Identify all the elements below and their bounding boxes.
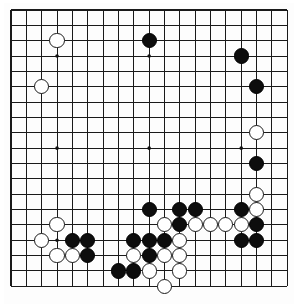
star-point-6 [55, 238, 59, 242]
stone-white-c2-r15[interactable] [34, 233, 49, 248]
stone-black-c7-r17[interactable] [111, 263, 126, 278]
stone-black-c5-r15[interactable] [80, 233, 95, 248]
stone-white-c16-r12[interactable] [249, 187, 264, 202]
star-point-1 [147, 54, 151, 58]
stone-black-c9-r2[interactable] [142, 33, 157, 48]
star-point-0 [55, 54, 59, 58]
stone-black-c15-r3[interactable] [234, 48, 249, 63]
stone-black-c4-r15[interactable] [65, 233, 80, 248]
star-point-3 [55, 146, 59, 150]
stone-white-c3-r14[interactable] [49, 217, 64, 232]
stone-black-c16-r15[interactable] [249, 233, 264, 248]
stone-black-c15-r15[interactable] [234, 233, 249, 248]
star-point-4 [147, 146, 151, 150]
go-board-container [0, 0, 298, 307]
stone-white-c11-r17[interactable] [172, 263, 187, 278]
stone-black-c9-r16[interactable] [142, 248, 157, 263]
star-point-5 [239, 146, 243, 150]
stone-black-c9-r15[interactable] [142, 233, 157, 248]
stone-black-c15-r13[interactable] [234, 202, 249, 217]
stone-white-c10-r18[interactable] [157, 279, 172, 294]
stone-white-c3-r2[interactable] [49, 33, 64, 48]
stone-white-c3-r16[interactable] [49, 248, 64, 263]
stone-black-c8-r17[interactable] [126, 263, 141, 278]
stone-white-c9-r17[interactable] [142, 263, 157, 278]
stone-black-c12-r13[interactable] [188, 202, 203, 217]
stone-black-c10-r15[interactable] [157, 233, 172, 248]
stone-black-c9-r13[interactable] [142, 202, 157, 217]
